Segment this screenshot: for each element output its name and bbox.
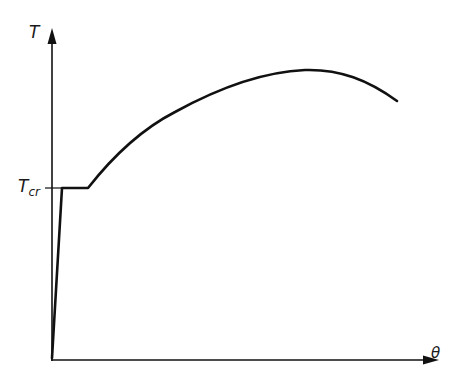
diagram-canvas bbox=[0, 0, 465, 372]
y-axis-arrow-icon bbox=[48, 28, 57, 44]
tcr-label-main: T bbox=[18, 176, 28, 196]
y-axis-label: T bbox=[29, 22, 39, 42]
t-theta-curve bbox=[52, 70, 397, 358]
tcr-label-sub: cr bbox=[28, 185, 40, 199]
x-axis-label: θ bbox=[431, 344, 440, 362]
tcr-label: Tcr bbox=[18, 176, 40, 199]
